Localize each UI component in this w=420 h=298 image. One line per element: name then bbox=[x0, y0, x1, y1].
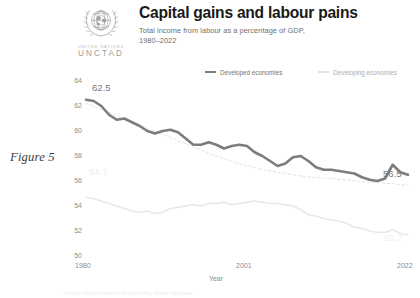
y-tick-label: 56 bbox=[60, 177, 82, 184]
annotation-start-developing: 54.7 bbox=[89, 166, 108, 177]
y-tick-label: 62 bbox=[60, 102, 82, 109]
y-tick-label: 60 bbox=[60, 127, 82, 134]
x-axis-title: Year bbox=[6, 275, 420, 282]
series-line-developing bbox=[86, 197, 408, 235]
source-note: Source: United Nations Global Policy Mod… bbox=[64, 290, 192, 296]
series-line-developed bbox=[86, 100, 408, 181]
y-tick-label: 64 bbox=[60, 77, 82, 84]
y-tick-label: 54 bbox=[60, 202, 82, 209]
annotation-start-developed: 62.5 bbox=[92, 82, 111, 93]
annotation-end-developing: 51.7 bbox=[384, 232, 403, 243]
y-tick-label: 58 bbox=[60, 152, 82, 159]
x-axis: 198020012022 bbox=[0, 262, 420, 274]
y-tick-label: 52 bbox=[60, 227, 82, 234]
series-line-developed-trend bbox=[86, 104, 408, 185]
x-tick-label: 2022 bbox=[397, 262, 413, 269]
x-tick-label: 2001 bbox=[236, 262, 252, 269]
annotation-end-developed: 56.5 bbox=[383, 168, 402, 179]
y-tick-label: 50 bbox=[60, 252, 82, 259]
x-tick-label: 1980 bbox=[75, 262, 91, 269]
chart-plot-area: 5052545658606264 198020012022 Year 62.5 … bbox=[0, 0, 420, 298]
y-axis: 5052545658606264 bbox=[56, 0, 82, 298]
